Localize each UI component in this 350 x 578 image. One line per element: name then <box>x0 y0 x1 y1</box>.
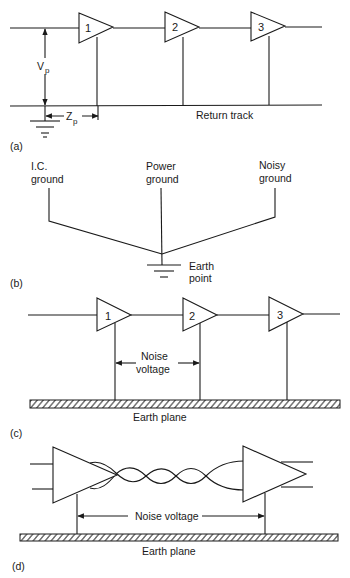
amplifier-label: 3 <box>258 21 264 33</box>
zp-subscript: p <box>73 117 78 126</box>
ic-ground-label: ground <box>31 173 64 185</box>
panel-a: 1 2 3 Return track V p Z p (a) <box>10 12 322 152</box>
noisy-ground-wire <box>162 188 275 254</box>
panel-caption: (a) <box>10 140 23 152</box>
amplifier-label: 1 <box>105 310 111 322</box>
return-track-line <box>10 105 322 106</box>
return-track-label: Return track <box>196 109 254 121</box>
earth-ground-icon <box>147 265 181 277</box>
earth-ground-icon <box>30 106 60 137</box>
earth-point-label: Earth <box>189 260 214 272</box>
noisy-ground-label: ground <box>259 172 292 184</box>
vp-label: V <box>37 60 44 72</box>
earth-plane-label: Earth plane <box>142 545 196 557</box>
amplifier-label: 3 <box>277 309 283 321</box>
amplifier-3 <box>251 12 285 41</box>
panel-caption: (b) <box>10 277 23 289</box>
ic-ground-label: I.C. <box>31 160 47 172</box>
noisy-ground-label: Noisy <box>259 159 286 171</box>
power-ground-label: Power <box>146 160 176 172</box>
amplifier-3 <box>269 297 303 331</box>
earth-point-label: point <box>189 272 212 284</box>
vp-subscript: p <box>45 66 50 75</box>
amplifier-2 <box>165 12 199 42</box>
earth-plane <box>30 400 340 408</box>
zp-label: Z <box>66 110 73 122</box>
earth-plane-label: Earth plane <box>133 411 187 423</box>
power-ground-label: ground <box>146 173 179 185</box>
panel-b: I.C. ground Power ground Noisy ground Ea… <box>10 159 292 289</box>
amplifier-label: 2 <box>172 21 178 33</box>
noise-voltage-label: voltage <box>136 363 170 375</box>
grounding-diagram: 1 2 3 Return track V p Z p (a) <box>0 0 350 578</box>
panel-caption: (d) <box>12 560 25 572</box>
panel-d: Noise voltage Earth plane (d) <box>12 446 338 572</box>
amplifier-label: 2 <box>189 310 195 322</box>
earth-plane <box>20 534 338 541</box>
amplifier-1 <box>97 298 131 331</box>
panel-caption: (c) <box>10 427 22 439</box>
line-receiver-amplifier <box>243 446 306 502</box>
amplifier-label: 1 <box>85 22 91 34</box>
noise-voltage-label: Noise <box>141 350 168 362</box>
line-driver-amplifier <box>53 447 117 503</box>
panel-c: 1 2 3 Noise voltage Earth plane (c) <box>10 297 340 439</box>
ic-ground-wire <box>49 188 162 254</box>
noise-voltage-label: Noise voltage <box>135 510 199 522</box>
